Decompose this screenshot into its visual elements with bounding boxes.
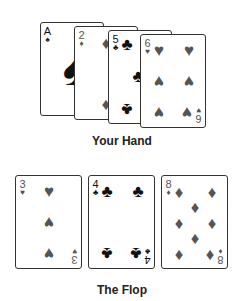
card-three-of-hearts: 3 ♥ ♥ ♥ ♥ 3 ♥ xyxy=(15,175,82,269)
card-six-of-hearts: 6 ♥ ♥ ♥ ♥ ♥ ♥ ♥ 6 ♥ xyxy=(140,34,206,128)
club-icon: ♣ xyxy=(143,247,152,255)
diamond-icon: ♦ xyxy=(186,199,204,216)
heart-icon: ♥ xyxy=(40,183,58,200)
diamond-icon: ♦ xyxy=(77,40,86,48)
club-icon: ♣ xyxy=(98,183,116,200)
card-four-of-clubs: 4 ♣ ♣ ♣ ♣ ♣ 4 ♣ xyxy=(88,175,155,269)
card-eight-of-diamonds: 8 ♦ ♦ ♦ ♦ ♦ ♦ ♦ ♦ ♦ 8 ♦ xyxy=(161,175,228,269)
diamond-icon: ♦ xyxy=(170,246,188,263)
club-icon: ♣ xyxy=(129,183,147,200)
heart-icon: ♥ xyxy=(40,214,58,231)
card-index: 2 ♦ xyxy=(77,30,86,48)
the-flop-label: The Flop xyxy=(0,283,244,297)
card-index-bottom: 4 ♣ xyxy=(143,247,152,265)
card-index-bottom: 8 ♦ xyxy=(216,247,225,265)
heart-icon: ♥ xyxy=(40,245,58,262)
club-icon: ♣ xyxy=(118,101,136,118)
heart-icon: ♥ xyxy=(194,106,203,114)
heart-icon: ♥ xyxy=(180,42,198,59)
diamond-icon: ♦ xyxy=(186,230,204,247)
diamond-icon: ♦ xyxy=(203,184,221,201)
club-icon: ♣ xyxy=(118,36,136,53)
heart-icon: ♥ xyxy=(150,104,168,121)
card-index-bottom: 6 ♥ xyxy=(194,106,203,124)
heart-icon: ♥ xyxy=(70,247,79,255)
heart-icon: ♥ xyxy=(18,189,27,197)
card-index: 3 ♥ xyxy=(18,179,27,197)
club-icon: ♣ xyxy=(98,245,116,262)
spade-icon: ♠ xyxy=(43,36,52,44)
heart-icon: ♥ xyxy=(180,73,198,90)
heart-icon: ♥ xyxy=(150,73,168,90)
heart-icon: ♥ xyxy=(150,42,168,59)
your-hand-label: Your Hand xyxy=(0,134,244,148)
diamond-icon: ♦ xyxy=(203,215,221,232)
card-index-bottom: 3 ♥ xyxy=(70,247,79,265)
card-index: A ♠ xyxy=(43,26,52,44)
